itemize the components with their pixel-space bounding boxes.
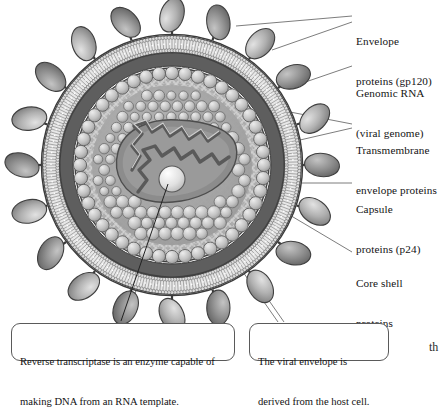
label-line: Envelope (356, 35, 432, 48)
caption-line: derived from the host cell. (258, 395, 381, 408)
caption-reverse-transcriptase: Reverse transcriptase is an enzyme capab… (11, 323, 235, 361)
label-line: Transmembrane (356, 144, 437, 157)
caption-viral-envelope: The viral envelope is derived from the h… (249, 323, 389, 361)
label-line: Genomic RNA (356, 87, 425, 100)
label-line: Capsule (356, 203, 420, 216)
caption-line: The viral envelope is (258, 355, 381, 368)
caption-line: making DNA from an RNA template. (20, 395, 227, 408)
caption-line: Reverse transcriptase is an enzyme capab… (20, 355, 227, 368)
page-corner-text: th (429, 340, 438, 355)
reverse-transcriptase-enzyme (159, 166, 185, 192)
label-line: Core shell (356, 277, 403, 290)
